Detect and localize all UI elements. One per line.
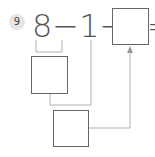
arrow-up-icon	[127, 46, 133, 53]
connector-lines	[0, 0, 155, 157]
bracket-step2	[50, 40, 91, 105]
bracket-step1	[36, 40, 62, 52]
arrow-line	[89, 52, 130, 128]
